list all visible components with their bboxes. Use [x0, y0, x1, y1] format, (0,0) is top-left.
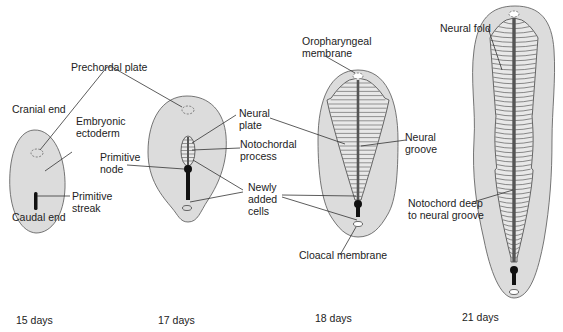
embryo-21-days: [473, 6, 555, 298]
primitive-streak-21: [512, 271, 516, 285]
primitive-streak-15: [34, 192, 38, 210]
oropharyngeal-membrane-21: [509, 11, 519, 17]
label-neural-fold: Neural fold: [440, 22, 491, 34]
label-neural-plate-17: Neural plate: [239, 107, 270, 131]
label-notochord-deep: Notochord deep to neural groove: [408, 197, 484, 221]
label-cloacal-membrane: Cloacal membrane: [299, 249, 387, 261]
oropharyngeal-membrane-18: [353, 73, 363, 79]
stage-label-21: 21 days: [462, 311, 499, 323]
label-newly-added-cells: Newly added cells: [248, 181, 277, 217]
primitive-streak-17: [186, 170, 190, 200]
label-notochordal-process: Notochordal process: [240, 138, 297, 162]
stage-label-17: 17 days: [158, 314, 195, 326]
label-embryonic-ectoderm: Embryonic ectoderm: [76, 115, 126, 139]
stage-label-15: 15 days: [16, 314, 53, 326]
label-caudal-end: Caudal end: [12, 211, 66, 223]
label-oropharyngeal-membrane: Oropharyngeal membrane: [302, 35, 371, 59]
label-primitive-node: Primitive node: [100, 151, 140, 175]
stage-label-18: 18 days: [315, 312, 352, 324]
label-neural-groove: Neural groove: [405, 131, 437, 155]
label-prechordal-plate: Prechordal plate: [71, 61, 147, 73]
leader-prechordal-17: [107, 67, 182, 107]
diagram-canvas: [0, 0, 563, 332]
embryo-17-days: [148, 96, 226, 222]
cloacal-membrane-18: [354, 222, 363, 227]
neural-plate-17: [181, 136, 195, 166]
label-cranial-end: Cranial end: [12, 103, 66, 115]
cloacal-membrane-21: [510, 290, 519, 295]
primitive-streak-18: [356, 205, 360, 217]
embryo-development-diagram: Prechordal plate Cranial end Embryonic e…: [0, 0, 563, 332]
label-primitive-streak: Primitive streak: [72, 190, 112, 214]
